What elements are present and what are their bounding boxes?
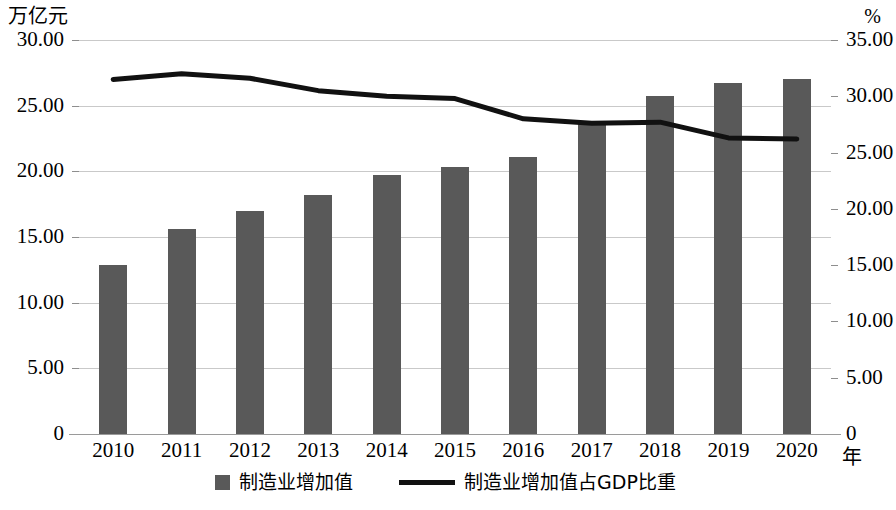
left-axis-tick-labels: 05.0010.0015.0020.0025.0030.00 [0,0,76,510]
right-axis-tick-label: 25.00 [846,142,893,163]
x-axis-baseline [69,434,841,435]
x-axis-tick-label: 2017 [571,440,613,461]
legend-line-swatch-icon [399,480,455,485]
left-axis-tick-label: 25.00 [17,95,64,116]
axis-tickmark [831,378,838,379]
legend-item-line: 制造业增加值占GDP比重 [399,473,676,492]
right-axis-tick-label: 35.00 [846,29,893,50]
right-axis-tick-label: 20.00 [846,198,893,219]
axis-tickmark [72,237,79,238]
x-axis-tick-label: 2016 [502,440,544,461]
axis-tickmark [72,40,79,41]
axis-tickmark [72,303,79,304]
right-axis-tick-label: 15.00 [846,254,893,275]
line-series-path [113,74,797,139]
legend-item-bar: 制造业增加值 [215,473,353,492]
right-axis-tick-labels: 05.0010.0015.0020.0025.0030.0035.00 [836,0,896,510]
axis-tickmark [831,265,838,266]
right-axis-tick-label: 30.00 [846,85,893,106]
legend-item-label: 制造业增加值 [239,473,353,492]
axis-tickmark [831,153,838,154]
axis-tickmark [831,40,838,41]
right-axis-tick-label: 5.00 [846,367,883,388]
axis-tickmark [831,96,838,97]
x-axis-tick-label: 2018 [639,440,681,461]
axis-tickmark [831,321,838,322]
left-axis-tick-label: 0 [54,423,65,444]
x-axis-tick-label: 2015 [434,440,476,461]
right-axis-tick-label: 10.00 [846,310,893,331]
x-axis-tick-labels: 2010201120122013201420152016201720182019… [79,440,831,470]
x-axis-tick-label: 2014 [366,440,408,461]
axis-tickmark [72,171,79,172]
x-axis-tick-label: 2010 [92,440,134,461]
x-axis-tick-label: 2013 [297,440,339,461]
line-series [79,40,831,434]
x-axis-tick-label: 2019 [707,440,749,461]
axis-tickmark [831,209,838,210]
axis-tickmark [72,106,79,107]
left-axis-tick-label: 30.00 [17,29,64,50]
axis-tickmark [72,368,79,369]
x-axis-tick-label: 2011 [161,440,202,461]
chart-legend: 制造业增加值 制造业增加值占GDP比重 [0,473,891,492]
legend-item-label: 制造业增加值占GDP比重 [464,473,676,492]
left-axis-tick-label: 15.00 [17,226,64,247]
plot-area [79,40,831,434]
left-axis-tick-label: 5.00 [27,357,64,378]
legend-bar-swatch-icon [215,475,230,490]
left-axis-tick-label: 10.00 [17,292,64,313]
left-axis-tick-label: 20.00 [17,160,64,181]
x-axis-tick-label: 2020 [776,440,818,461]
x-axis-unit-label: 年 [842,441,862,470]
x-axis-tick-label: 2012 [229,440,271,461]
